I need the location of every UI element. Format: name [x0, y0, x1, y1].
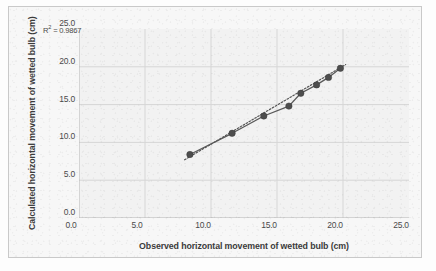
chart-frame: 25.0 20.0 15.0 10.0 5.0 0.0 0.0 5.0 10.0…	[8, 6, 422, 258]
x-tick-label: 10.0	[183, 221, 223, 230]
x-axis-title: Observed horizontal movement of wetted b…	[69, 241, 419, 251]
x-tick-label: 15.0	[249, 221, 289, 230]
screenshot-root: 25.0 20.0 15.0 10.0 5.0 0.0 0.0 5.0 10.0…	[0, 0, 436, 271]
x-tick-label: 20.0	[315, 221, 355, 230]
x-tick-label: 0.0	[51, 221, 91, 230]
r-squared-value: = 0.9867	[51, 26, 81, 35]
x-tick-label: 5.0	[117, 221, 157, 230]
x-tick-label: 25.0	[381, 221, 421, 230]
y-axis-title-wrapper: Calculated horizontal movement of wetted…	[19, 17, 45, 232]
r-squared-annotation: R2 = 0.9867	[43, 24, 81, 35]
x-axis-ticks: 0.0 5.0 10.0 15.0 20.0 25.0	[9, 7, 423, 259]
y-axis-title: Calculated horizontal movement of wetted…	[27, 20, 37, 230]
